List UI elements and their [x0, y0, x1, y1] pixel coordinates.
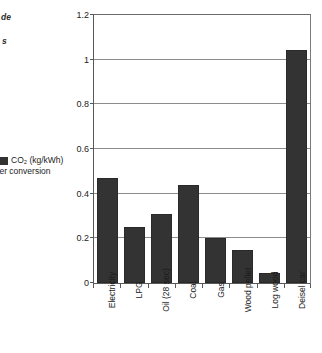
- chart-legend: CO₂ (kg/kWh) after conversion: [0, 155, 86, 177]
- x-axis-tick-label: Electricity: [107, 272, 117, 308]
- bar-deisel-car: [286, 50, 307, 283]
- x-axis-tick-mark: [310, 284, 311, 288]
- x-axis-tick-mark: [148, 284, 149, 288]
- bar-chart-figure: de s CO₂ (kg/kWh) after conversion 00.20…: [0, 0, 322, 353]
- bar-gas: [205, 238, 226, 283]
- x-axis-tick-mark: [284, 284, 285, 288]
- y-axis-tick-label: 0.8: [76, 99, 94, 109]
- x-axis-tick-mark: [202, 284, 203, 288]
- bar-coal: [178, 185, 199, 283]
- x-axis-tick-mark: [93, 284, 94, 288]
- legend-label-line1: CO₂ (kg/kWh): [11, 155, 63, 166]
- bar-slot: [148, 15, 175, 283]
- bar-electricity: [97, 178, 118, 283]
- bar-lpg: [124, 227, 145, 283]
- x-axis-tick-label: Log wood: [270, 272, 280, 309]
- bars-group: [94, 15, 310, 283]
- bar-slot: [121, 15, 148, 283]
- x-axis-labels: ElectricityLPGOil (28 sec)CoalGasWood pe…: [93, 288, 311, 353]
- x-axis-label-slot: Log wood: [257, 288, 284, 353]
- x-axis-tick-mark: [229, 284, 230, 288]
- y-axis-tick-label: 0.4: [76, 189, 94, 199]
- margin-text-fragment-top: de: [1, 12, 11, 22]
- legend-label-line2: after conversion: [0, 166, 86, 177]
- x-axis-tick-label: Wood pellet: [243, 268, 253, 313]
- y-axis-tick-label: 1: [84, 55, 94, 65]
- x-axis-label-slot: Oil (28 sec): [148, 288, 175, 353]
- plot-area: 00.20.40.60.811.2: [93, 14, 311, 284]
- y-axis-tick-label: 0.6: [76, 144, 94, 154]
- bar-slot: [94, 15, 121, 283]
- y-axis-tick-label: 1.2: [76, 10, 94, 20]
- x-axis-tick-label: Coal: [188, 281, 198, 298]
- y-axis-tick-label: 0.2: [76, 233, 94, 243]
- legend-entry: CO₂ (kg/kWh): [0, 155, 86, 166]
- x-axis-tick-label: Gas: [216, 282, 226, 298]
- legend-color-swatch: [0, 157, 8, 165]
- x-axis-label-slot: Deisel car: [284, 288, 311, 353]
- x-axis-label-slot: Gas: [202, 288, 229, 353]
- x-axis-tick-label: Deisel car: [297, 271, 307, 309]
- margin-text-fragment-second: s: [2, 36, 7, 46]
- x-axis-tick-mark: [175, 284, 176, 288]
- bar-slot: [175, 15, 202, 283]
- x-axis-tick-label: LPG: [134, 281, 144, 298]
- x-axis-label-slot: Electricity: [93, 288, 120, 353]
- bar-slot: [256, 15, 283, 283]
- bar-slot: [283, 15, 310, 283]
- x-axis-label-slot: LPG: [120, 288, 147, 353]
- x-axis-tick-mark: [120, 284, 121, 288]
- x-axis-label-slot: Coal: [175, 288, 202, 353]
- bar-slot: [202, 15, 229, 283]
- x-axis-tick-label: Oil (28 sec): [161, 268, 171, 311]
- x-axis-label-slot: Wood pellet: [229, 288, 256, 353]
- bar-slot: [229, 15, 256, 283]
- x-axis-tick-mark: [257, 284, 258, 288]
